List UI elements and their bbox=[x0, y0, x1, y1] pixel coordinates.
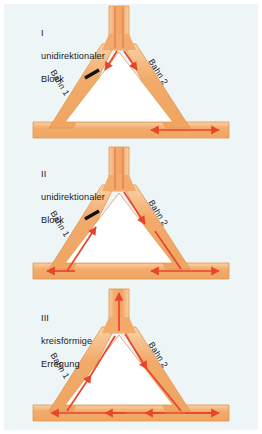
panel-circular-excitation: III kreisförmige Erregung Bahn 1 Bahn 2 bbox=[5, 287, 257, 432]
panel-1-roman: I bbox=[41, 28, 105, 40]
panel-unidirectional-block-2: II unidirektionaler Block Bahn 1 Bahn 2 bbox=[5, 145, 257, 290]
panel-3-roman: III bbox=[41, 313, 92, 325]
panel-3-title-line-1: kreisförmige bbox=[41, 336, 92, 346]
figure-container: I unidirektionaler Block Bahn 1 Bahn 2 bbox=[0, 0, 262, 434]
panel-1-title-line-1: unidirektionaler bbox=[41, 51, 105, 61]
panel-unidirectional-block-1: I unidirektionaler Block Bahn 1 Bahn 2 bbox=[5, 4, 257, 149]
panel-3-caption: III kreisförmige Erregung bbox=[41, 301, 92, 371]
figure-plate: I unidirektionaler Block Bahn 1 Bahn 2 bbox=[5, 4, 257, 430]
panel-2-roman: II bbox=[41, 169, 105, 181]
panel-2-title-line-1: unidirektionaler bbox=[41, 192, 105, 202]
